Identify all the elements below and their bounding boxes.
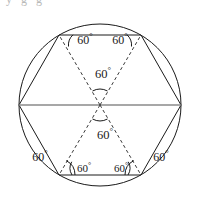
degree-symbol-icon: ° xyxy=(44,148,47,158)
angle-label-top-left-vertex: 60° xyxy=(77,32,92,46)
angle-label-bottom-left-inner: 60° xyxy=(77,162,91,175)
angle-label-top-right-vertex: 60° xyxy=(112,32,127,46)
angle-label-bottom-right-inner: 60° xyxy=(114,162,128,175)
angle-label-center-upper-value: 60 xyxy=(95,67,108,81)
angle-label-center-lower-value: 60 xyxy=(97,128,110,142)
angle-label-bottom-left-outer-value: 60 xyxy=(32,150,44,164)
angle-label-top-right-vertex-value: 60 xyxy=(112,33,124,47)
angle-label-bottom-right-inner-value: 60 xyxy=(114,162,125,174)
degree-symbol-icon: ° xyxy=(89,31,92,41)
degree-symbol-icon: ° xyxy=(165,148,168,158)
angle-arc-bottom-left-inner xyxy=(70,162,72,175)
angle-label-bottom-left-inner-value: 60 xyxy=(77,162,88,174)
angle-label-bottom-left-outer: 60° xyxy=(32,149,47,163)
angle-label-bottom-right-outer: 60° xyxy=(153,149,168,163)
degree-symbol-icon: ° xyxy=(107,65,111,75)
angle-label-top-left-vertex-value: 60 xyxy=(77,33,89,47)
geometry-diagram xyxy=(0,0,197,207)
angle-label-bottom-right-outer-value: 60 xyxy=(153,150,165,164)
degree-symbol-icon: ° xyxy=(125,161,128,170)
degree-symbol-icon: ° xyxy=(124,31,127,41)
angle-arc-center-upper xyxy=(93,89,108,91)
angle-arc-center-lower xyxy=(93,119,108,121)
angle-arc-top-left-vertex xyxy=(68,35,73,47)
angle-label-center-lower: 60° xyxy=(97,127,113,142)
degree-symbol-icon: ° xyxy=(109,126,113,136)
degree-symbol-icon: ° xyxy=(88,161,91,170)
angle-label-center-upper: 60° xyxy=(95,66,111,81)
